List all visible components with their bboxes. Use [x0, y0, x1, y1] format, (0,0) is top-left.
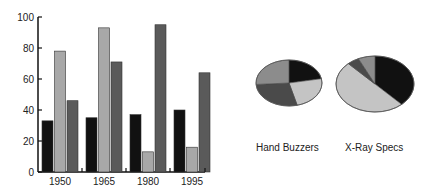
- pie-chart-x-ray-specs: [336, 56, 414, 112]
- bar-1980-1: [130, 115, 141, 172]
- chart-canvas: 0204060801001950196519801995: [0, 0, 433, 190]
- bar-chart: 0204060801001950196519801995: [17, 12, 210, 188]
- pie-label-hand-buzzers: Hand Buzzers: [256, 142, 319, 153]
- y-tick-label: 20: [23, 136, 35, 147]
- bar-1965-3: [111, 62, 122, 172]
- y-tick-label: 0: [28, 167, 34, 178]
- x-tick-label: 1965: [93, 176, 116, 187]
- y-tick-label: 40: [23, 105, 35, 116]
- bar-1995-2: [187, 147, 198, 172]
- y-tick-label: 80: [23, 43, 35, 54]
- bar-1965-2: [99, 28, 110, 172]
- y-tick-label: 100: [17, 12, 34, 23]
- y-tick-label: 60: [23, 74, 35, 85]
- x-tick-label: 1950: [49, 176, 72, 187]
- bar-1965-1: [86, 118, 97, 172]
- x-tick-label: 1980: [137, 176, 160, 187]
- bar-1950-1: [42, 121, 53, 172]
- x-tick-label: 1995: [181, 176, 204, 187]
- pie-label-x-ray-specs: X-Ray Specs: [345, 142, 403, 153]
- bar-1995-1: [174, 110, 185, 172]
- bar-1980-2: [143, 152, 154, 172]
- bar-1950-3: [67, 101, 78, 172]
- pie-slice-4: [256, 60, 289, 84]
- bar-1995-3: [199, 73, 210, 172]
- bar-1980-3: [155, 25, 166, 172]
- pie-chart-hand-buzzers: [256, 60, 322, 106]
- bar-1950-2: [55, 51, 66, 172]
